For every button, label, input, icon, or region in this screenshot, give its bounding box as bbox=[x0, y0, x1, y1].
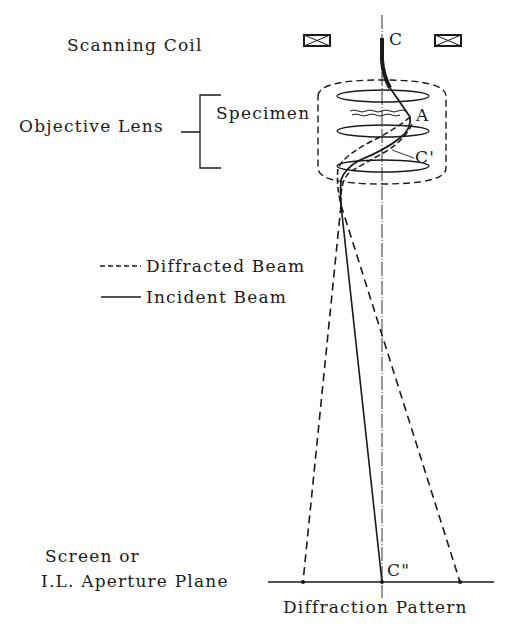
point-a-label: A bbox=[415, 105, 429, 125]
incident-beam-spiral bbox=[341, 88, 411, 205]
specimen-label: Specimen bbox=[216, 103, 310, 123]
electron-optics-diagram: Scanning Coil C Objective Lens Specimen … bbox=[0, 0, 514, 628]
objective-lens-label: Objective Lens bbox=[19, 116, 164, 136]
legend-diffracted-beam: Diffracted Beam bbox=[146, 256, 305, 276]
diffraction-pattern-label: Diffraction Pattern bbox=[283, 597, 468, 617]
diffracted-beam-left bbox=[303, 205, 341, 582]
diffraction-spot-center bbox=[380, 580, 384, 584]
scanning-coil-right-icon bbox=[435, 35, 461, 46]
incident-beam-lower bbox=[341, 205, 382, 582]
diffraction-spot-left bbox=[301, 580, 305, 584]
point-c-prime-label: C' bbox=[415, 147, 435, 167]
legend-incident-beam: Incident Beam bbox=[146, 287, 287, 307]
screen-label-line1: Screen or bbox=[45, 546, 140, 566]
scanning-coil-left-icon bbox=[304, 35, 330, 46]
specimen-layer bbox=[350, 110, 406, 116]
point-c-double-prime-label: C" bbox=[387, 560, 410, 580]
c-prime-leader bbox=[392, 150, 414, 158]
screen-label-line2: I.L. Aperture Plane bbox=[41, 571, 229, 591]
diffraction-spot-right bbox=[458, 580, 462, 584]
objective-lens-bracket bbox=[181, 95, 221, 168]
point-c-label: C bbox=[389, 29, 403, 49]
legend: Diffracted Beam Incident Beam bbox=[100, 256, 305, 307]
diffracted-beam-right bbox=[341, 205, 460, 582]
scanning-coil-label: Scanning Coil bbox=[67, 35, 203, 55]
lens-element-top bbox=[337, 90, 429, 102]
